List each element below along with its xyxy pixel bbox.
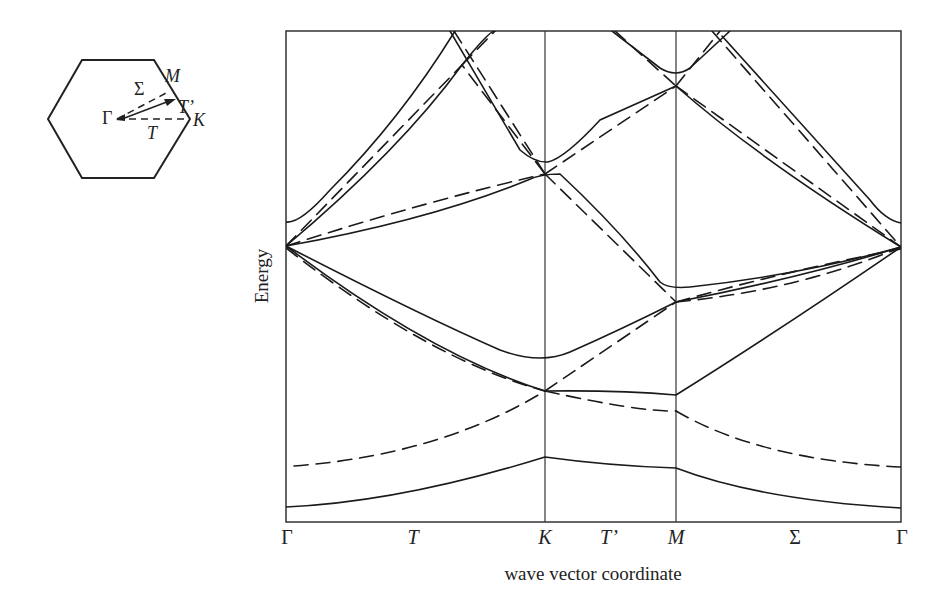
inset-label-k: K	[193, 110, 205, 131]
x-tick-t-prime: T’	[600, 526, 618, 549]
inset-label-gamma: Γ	[102, 108, 112, 129]
arrow-head-icon	[164, 99, 176, 106]
arrow-tail-icon	[116, 114, 125, 121]
chart-frame	[286, 31, 901, 522]
x-tick-t: T	[407, 526, 418, 549]
inset-label-m: M	[165, 66, 180, 87]
inset-label-t-prime: T’	[178, 97, 194, 118]
dashed-bands	[286, 31, 901, 467]
x-tick-k: K	[538, 526, 551, 549]
y-axis-label: Energy	[251, 249, 273, 304]
x-tick-gamma-left: Γ	[281, 526, 293, 549]
x-tick-m: M	[668, 526, 685, 549]
solid-bands	[286, 31, 901, 508]
inset-label-t: T	[147, 123, 157, 144]
x-tick-sigma: Σ	[789, 526, 801, 549]
inset-label-sigma: Σ	[134, 79, 144, 100]
x-tick-gamma-right: Γ	[896, 526, 908, 549]
x-axis-label: wave vector coordinate	[504, 563, 681, 585]
gamma-arrow-line	[122, 100, 172, 119]
